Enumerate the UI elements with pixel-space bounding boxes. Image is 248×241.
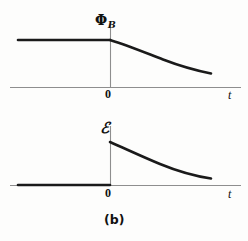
figure-container: ΦB ℰ 0 t 0 t (b) (0, 0, 248, 241)
flux-decay-curve (110, 40, 211, 74)
figure-caption: (b) (104, 214, 124, 227)
top-chart-y-axis-label: ΦB (95, 13, 116, 29)
top-chart-axes (10, 25, 241, 88)
phi-subscript: B (108, 19, 116, 30)
top-chart-x-axis-label: t (228, 89, 231, 101)
emf-decay-curve (110, 142, 211, 179)
bottom-chart-series (18, 142, 211, 185)
top-chart-origin-tick-label: 0 (105, 88, 111, 100)
bottom-chart-x-axis-label: t (228, 188, 231, 200)
bottom-chart-y-axis-label: ℰ (99, 121, 109, 136)
figure-svg (0, 0, 248, 241)
phi-symbol: Φ (95, 12, 107, 28)
top-chart-series (18, 40, 211, 74)
bottom-chart-origin-tick-label: 0 (105, 187, 111, 199)
